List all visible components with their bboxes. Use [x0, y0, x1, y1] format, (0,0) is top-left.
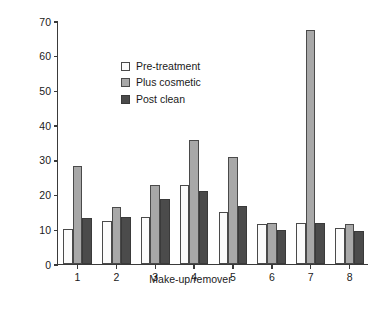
bar-7-series-2	[315, 223, 325, 264]
legend-label: Plus cosmetic	[136, 77, 201, 88]
x-tick-mark	[310, 265, 311, 270]
x-tick-mark	[116, 265, 117, 270]
bar-6-series-1	[267, 223, 277, 264]
bar-8-series-2	[354, 231, 364, 264]
y-tick-mark	[54, 21, 59, 22]
bar-2-series-0	[102, 221, 112, 264]
bar-5-series-0	[219, 212, 229, 264]
bar-1-series-0	[63, 229, 73, 264]
x-tick-mark	[232, 265, 233, 270]
x-tick-mark	[271, 265, 272, 270]
bar-2-series-2	[121, 217, 131, 264]
y-tick-mark	[54, 264, 59, 265]
y-tick-label: 40	[39, 119, 51, 134]
x-tick-mark	[155, 265, 156, 270]
bar-7-series-0	[296, 223, 306, 264]
bar-2-series-1	[112, 207, 122, 264]
bar-chart-figure: Relative absorbance 010203040506070 1234…	[0, 0, 381, 315]
y-tick-label: 60	[39, 49, 51, 64]
legend-swatch-icon	[121, 78, 130, 87]
bar-4-series-0	[180, 185, 190, 264]
x-tick-mark	[193, 265, 194, 270]
x-tick-mark	[77, 265, 78, 270]
bar-1-series-1	[73, 166, 83, 264]
bar-4-series-2	[199, 191, 209, 264]
x-tick-mark	[349, 265, 350, 270]
legend-swatch-icon	[121, 95, 130, 104]
bar-6-series-0	[257, 224, 267, 264]
y-tick-label: 70	[39, 15, 51, 30]
y-tick-mark	[54, 160, 59, 161]
bar-8-series-0	[335, 228, 345, 264]
bar-1-series-2	[82, 218, 92, 264]
y-tick-mark	[54, 230, 59, 231]
bar-4-series-1	[189, 140, 199, 264]
bar-5-series-2	[238, 206, 248, 264]
y-tick-label: 30	[39, 153, 51, 168]
y-tick-mark	[54, 91, 59, 92]
y-tick-label: 50	[39, 84, 51, 99]
bar-3-series-2	[160, 199, 170, 264]
y-tick-label: 10	[39, 223, 51, 238]
y-tick-label: 20	[39, 188, 51, 203]
y-tick-label: 0	[45, 258, 51, 273]
chart-legend: Pre-treatmentPlus cosmeticPost clean	[121, 59, 201, 109]
legend-item-1: Plus cosmetic	[121, 76, 201, 90]
bar-6-series-2	[277, 230, 287, 264]
plot-area: 010203040506070 12345678 Pre-treatmentPl…	[57, 22, 368, 265]
y-tick-mark	[54, 125, 59, 126]
bar-7-series-1	[306, 30, 316, 264]
legend-label: Pre-treatment	[136, 61, 200, 72]
y-tick-mark	[54, 195, 59, 196]
bar-3-series-1	[150, 185, 160, 264]
bar-3-series-0	[141, 217, 151, 264]
x-axis-label: Make-up/remover	[0, 273, 381, 285]
legend-label: Post clean	[136, 94, 185, 105]
legend-item-2: Post clean	[121, 92, 201, 106]
bar-5-series-1	[228, 157, 238, 264]
legend-swatch-icon	[121, 62, 130, 71]
bar-8-series-1	[345, 224, 355, 264]
legend-item-0: Pre-treatment	[121, 59, 201, 73]
y-tick-mark	[54, 56, 59, 57]
